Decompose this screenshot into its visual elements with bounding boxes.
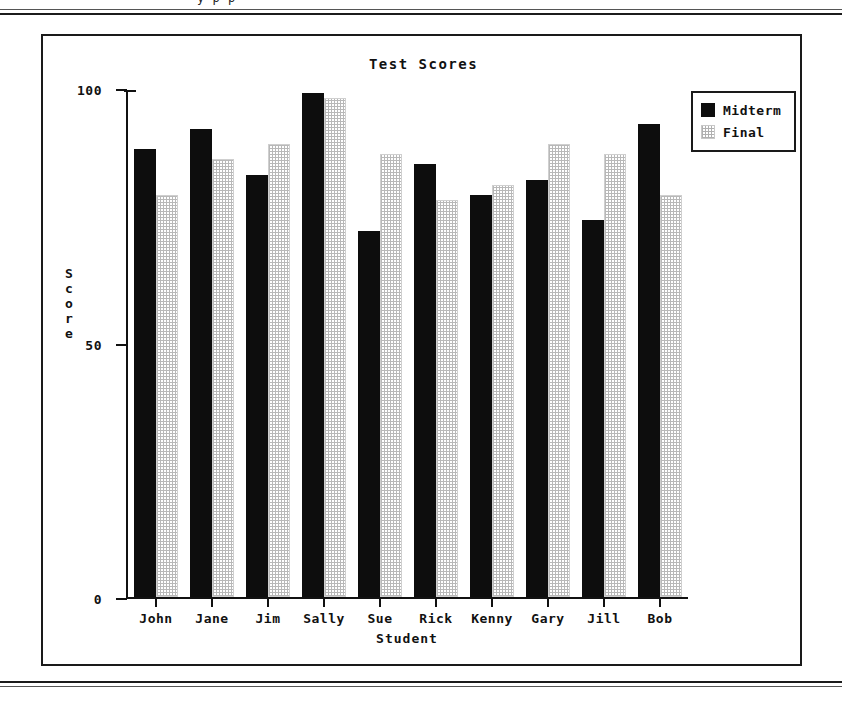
y-axis-title-char: o bbox=[61, 296, 77, 311]
x-tick bbox=[211, 597, 213, 607]
y-tick-label: 0 bbox=[94, 592, 102, 607]
bar-jim-final bbox=[268, 144, 290, 597]
y-tick: 100 bbox=[116, 89, 127, 91]
x-tick-label: Jim bbox=[256, 611, 281, 626]
x-tick bbox=[435, 597, 437, 607]
chart-frame: Test Scores Score 050100 JohnJaneJimSall… bbox=[41, 34, 802, 666]
x-tick-label: Jane bbox=[195, 611, 228, 626]
bar-gary-midterm bbox=[526, 180, 548, 597]
bar-john-midterm bbox=[134, 149, 156, 597]
x-tick bbox=[267, 597, 269, 607]
bar-group: Jim bbox=[240, 90, 296, 597]
legend-label-midterm: Midterm bbox=[723, 103, 781, 118]
x-tick bbox=[155, 597, 157, 607]
bar-sue-midterm bbox=[358, 231, 380, 597]
x-tick bbox=[491, 597, 493, 607]
y-tick-label: 100 bbox=[77, 83, 102, 98]
y-axis-title-char: e bbox=[61, 326, 77, 341]
bar-group: Kenny bbox=[464, 90, 520, 597]
bar-jim-midterm bbox=[246, 175, 268, 597]
plot-area: 050100 JohnJaneJimSallySueRickKennyGaryJ… bbox=[126, 90, 688, 599]
bar-jane-final bbox=[212, 159, 234, 597]
y-axis-title-char: S bbox=[61, 266, 77, 281]
x-tick bbox=[323, 597, 325, 607]
bar-rick-final bbox=[436, 200, 458, 597]
x-tick-label: John bbox=[139, 611, 172, 626]
y-axis-title: Score bbox=[61, 266, 77, 341]
bar-sue-final bbox=[380, 154, 402, 597]
bar-jill-midterm bbox=[582, 220, 604, 597]
page-rule-bottom-thin bbox=[0, 686, 842, 687]
chart-title: Test Scores bbox=[43, 56, 804, 72]
x-tick-label: Kenny bbox=[471, 611, 513, 626]
legend-item-final: Final bbox=[701, 121, 794, 143]
bar-group: Jane bbox=[184, 90, 240, 597]
legend-swatch-final-icon bbox=[701, 125, 715, 139]
bar-john-final bbox=[156, 195, 178, 597]
y-tick-label: 50 bbox=[85, 337, 102, 352]
bar-group: Rick bbox=[408, 90, 464, 597]
scan-header-fragment: y p p bbox=[0, 0, 842, 7]
legend-label-final: Final bbox=[723, 125, 765, 140]
bar-sally-final bbox=[324, 98, 346, 597]
chart-legend: Midterm Final bbox=[691, 91, 796, 152]
y-axis-title-char: r bbox=[61, 311, 77, 326]
y-axis-title-char: c bbox=[61, 281, 77, 296]
bar-kenny-midterm bbox=[470, 195, 492, 597]
x-tick-label: Sue bbox=[368, 611, 393, 626]
x-tick-label: Rick bbox=[419, 611, 452, 626]
x-axis-title: Student bbox=[126, 631, 688, 646]
bar-jane-midterm bbox=[190, 129, 212, 597]
bar-gary-final bbox=[548, 144, 570, 597]
bar-group: Jill bbox=[576, 90, 632, 597]
x-tick-label: Bob bbox=[648, 611, 673, 626]
x-tick bbox=[547, 597, 549, 607]
legend-swatch-midterm-icon bbox=[701, 103, 715, 117]
x-tick bbox=[603, 597, 605, 607]
page-rule-top-thick bbox=[0, 13, 842, 15]
bar-group: Sally bbox=[296, 90, 352, 597]
bar-group: Gary bbox=[520, 90, 576, 597]
x-tick-label: Jill bbox=[587, 611, 620, 626]
page-rule-top-thin bbox=[0, 9, 842, 10]
bar-group: Bob bbox=[632, 90, 688, 597]
x-tick bbox=[379, 597, 381, 607]
bar-kenny-final bbox=[492, 185, 514, 597]
x-tick bbox=[659, 597, 661, 607]
bar-group: John bbox=[128, 90, 184, 597]
x-tick-label: Sally bbox=[303, 611, 345, 626]
bar-bob-midterm bbox=[638, 124, 660, 597]
bar-sally-midterm bbox=[302, 93, 324, 597]
bar-group-container: JohnJaneJimSallySueRickKennyGaryJillBob bbox=[128, 90, 688, 597]
legend-item-midterm: Midterm bbox=[701, 99, 794, 121]
y-tick: 50 bbox=[116, 344, 127, 346]
y-tick: 0 bbox=[116, 598, 127, 600]
bar-bob-final bbox=[660, 195, 682, 597]
bar-rick-midterm bbox=[414, 164, 436, 597]
bar-jill-final bbox=[604, 154, 626, 597]
x-tick-label: Gary bbox=[531, 611, 564, 626]
page-rule-bottom-thick bbox=[0, 681, 842, 683]
bar-group: Sue bbox=[352, 90, 408, 597]
